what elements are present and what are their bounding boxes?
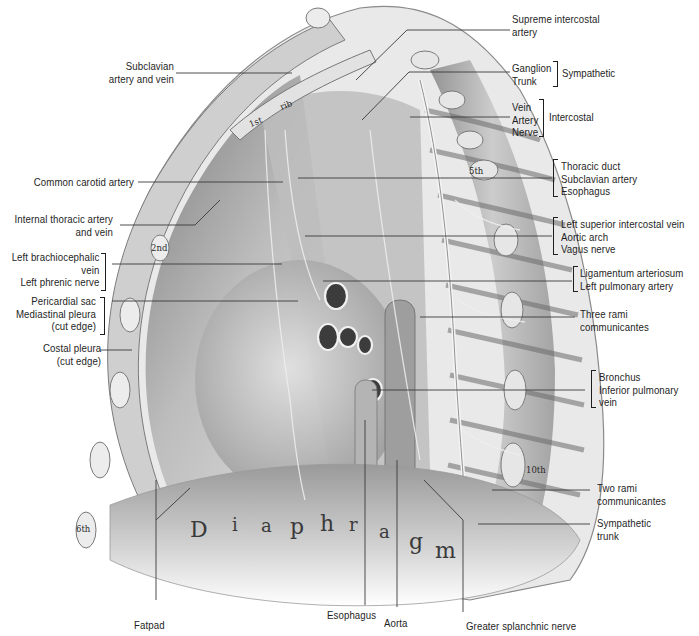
label-three-rami-communicantes: Three rami communicantes: [580, 308, 649, 333]
label-supreme-intercostal-artery: Supreme intercostal artery: [512, 13, 600, 38]
label-sympathetic-group: Sympathetic: [562, 67, 615, 79]
label-greater-splanchnic-nerve: Greater splanchnic nerve: [466, 620, 576, 633]
bracket-bronchus: [591, 370, 596, 408]
label-common-carotid-artery: Common carotid artery: [34, 176, 134, 189]
bracket-ligamentum: [573, 266, 578, 292]
label-sympathetic-items: Ganglion Trunk: [512, 62, 551, 87]
label-aortic-arch-group: Left superior intercostal vein Aortic ar…: [561, 218, 685, 256]
rib-label-2nd: 2nd: [151, 243, 167, 253]
label-internal-thoracic-artery-vein: Internal thoracic artery and vein: [15, 213, 113, 238]
label-sympathetic-trunk: Sympathetic trunk: [597, 517, 651, 542]
rib-label-6th: 6th: [76, 524, 90, 534]
bracket-intercostal: [539, 99, 544, 137]
label-fatpad: Fatpad: [134, 619, 165, 632]
rib-label-5th: 5th: [469, 166, 483, 176]
label-esophagus: Esophagus: [327, 609, 376, 622]
bracket-aortic-arch: [553, 217, 558, 255]
label-costal-pleura: Costal pleura (cut edge): [43, 342, 101, 367]
label-two-rami-communicantes: Two rami communicantes: [597, 482, 666, 507]
label-intercostal-group: Intercostal: [549, 111, 594, 123]
bracket-sympathetic: [553, 61, 558, 87]
bracket-thoracic-duct: [553, 159, 558, 197]
label-intercostal-items: Vein Artery Nerve: [512, 101, 538, 139]
anatomy-figure: 1st rib 2nd 5th 6th 10th D i a p h r a g…: [0, 0, 699, 636]
label-ligamentum-group: Ligamentum arteriosum Left pulmonary art…: [580, 267, 683, 292]
label-subclavian-artery-vein: Subclavian artery and vein: [109, 60, 174, 85]
bracket-brachiocephalic: [101, 253, 106, 291]
label-brachiocephalic-phrenic-group: Left brachiocephalic vein Left phrenic n…: [11, 251, 99, 289]
label-aorta: Aorta: [384, 617, 408, 630]
label-pericardial-mediastinal-group: Pericardial sac Mediastinal pleura (cut …: [16, 295, 96, 333]
rib-label-10th: 10th: [526, 465, 546, 475]
label-thoracic-duct-group: Thoracic duct Subclavian artery Esophagu…: [561, 160, 637, 198]
bracket-pericardial: [100, 297, 105, 335]
label-bronchus-group: Bronchus Inferior pulmonary vein: [599, 371, 679, 409]
